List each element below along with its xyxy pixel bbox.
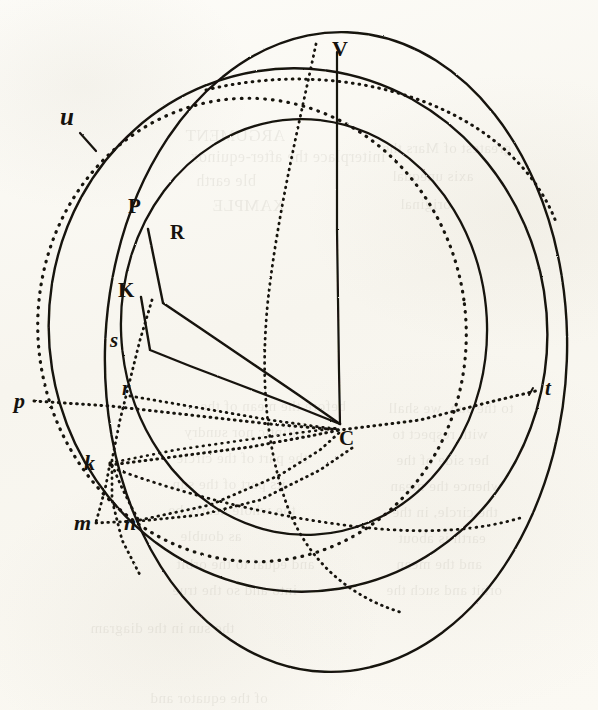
radius-C-P	[148, 229, 340, 424]
point-label-m: m	[74, 512, 91, 534]
point-label-V: V	[332, 38, 348, 60]
diagram-svg	[0, 0, 598, 710]
point-label-P: P	[128, 196, 141, 217]
point-label-s: s	[110, 330, 118, 351]
point-label-C: C	[339, 428, 354, 449]
point-label-K: K	[118, 280, 134, 301]
dotted-upper-right-arc	[206, 79, 556, 222]
dotted-inner-oblique-arc	[265, 44, 400, 612]
point-label-k: k	[84, 452, 95, 474]
dotted-k-m	[96, 463, 110, 522]
tick-mark-u	[80, 133, 96, 151]
point-label-n: n	[124, 512, 136, 534]
point-label-r: r	[122, 378, 130, 399]
point-label-R: R	[170, 222, 184, 242]
dotted-k-C-upper	[110, 428, 338, 463]
inner-circle	[110, 110, 497, 545]
point-label-u: u	[60, 104, 74, 129]
dotted-lower-right-arc	[118, 470, 520, 531]
radius-C-V	[337, 52, 340, 424]
figure-root: ARGUMENTiniterplace the after-equinoxble…	[0, 0, 598, 710]
point-label-p: p	[14, 390, 25, 412]
point-label-t: t	[545, 378, 551, 399]
radius-C-K	[141, 297, 340, 424]
